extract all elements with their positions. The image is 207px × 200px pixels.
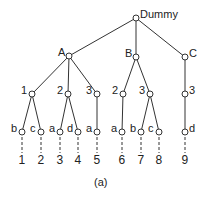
node-label: c xyxy=(30,123,36,134)
leaf-number: 3 xyxy=(57,154,64,166)
node-label: B xyxy=(125,48,132,59)
node-label: 3 xyxy=(189,85,195,96)
node-label: 3 xyxy=(139,85,145,96)
tree-node xyxy=(156,129,162,135)
tree-edge xyxy=(136,18,185,57)
tree-node xyxy=(65,91,71,97)
tree-node xyxy=(75,129,81,135)
tree-node xyxy=(29,91,35,97)
tree-node xyxy=(147,91,153,97)
tree-node xyxy=(133,15,139,21)
tree-node xyxy=(94,129,100,135)
tree-node xyxy=(182,129,188,135)
node-label: c xyxy=(148,123,154,134)
node-label: 2 xyxy=(57,85,63,96)
leaf-number: 2 xyxy=(38,154,45,166)
node-label: a xyxy=(49,123,55,134)
tree-node xyxy=(66,53,72,59)
node-label: a xyxy=(111,123,117,134)
tree-edge xyxy=(123,57,136,94)
node-label: 3 xyxy=(86,85,92,96)
node-label: b xyxy=(130,123,136,134)
leaf-number: 9 xyxy=(182,154,189,166)
node-label: Dummy xyxy=(140,9,178,20)
tree-graphics xyxy=(0,0,207,200)
tree-edge xyxy=(122,94,123,132)
leaf-number: 1 xyxy=(19,154,26,166)
node-label: A xyxy=(58,47,65,58)
tree-node xyxy=(182,91,188,97)
tree-node xyxy=(19,129,25,135)
leaf-number: 5 xyxy=(94,154,101,166)
leaf-number: 4 xyxy=(75,154,82,166)
tree-edge xyxy=(69,56,97,94)
figure-caption: (a) xyxy=(94,176,107,188)
node-label: a xyxy=(86,123,92,134)
node-label: b xyxy=(11,123,17,134)
tree-node xyxy=(94,91,100,97)
leaf-number: 7 xyxy=(138,154,145,166)
tree-diagram: 123456789DummyABC123233bcadaabcd (a) xyxy=(0,0,207,200)
tree-node xyxy=(133,54,139,60)
tree-node xyxy=(182,54,188,60)
tree-edge xyxy=(32,56,69,94)
tree-edge xyxy=(68,56,69,94)
tree-node xyxy=(38,129,44,135)
node-label: 2 xyxy=(112,85,118,96)
tree-node xyxy=(120,91,126,97)
node-label: 1 xyxy=(21,85,27,96)
tree-node xyxy=(138,129,144,135)
node-label: C xyxy=(189,48,197,59)
tree-node xyxy=(57,129,63,135)
node-label: d xyxy=(189,123,195,134)
leaf-number: 8 xyxy=(156,154,163,166)
leaf-number: 6 xyxy=(119,154,126,166)
tree-node xyxy=(119,129,125,135)
node-label: d xyxy=(67,123,73,134)
